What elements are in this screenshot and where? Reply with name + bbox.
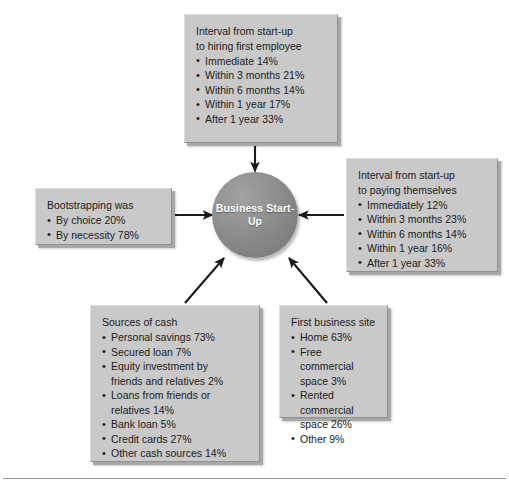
list-item: Personal savings 73% — [102, 330, 250, 345]
list-item: Home 63% — [291, 330, 378, 345]
list-item: Within 1 year 17% — [196, 97, 328, 112]
list-item: Within 1 year 16% — [358, 241, 488, 256]
info-box-list: Personal savings 73% Secured loan 7% Equ… — [102, 330, 250, 461]
center-node-business-start-up: Business Start-Up — [212, 172, 298, 258]
list-item: Other 9% — [291, 432, 378, 447]
info-box-title: Interval from start-up to hiring first e… — [196, 24, 328, 53]
info-box-list: Home 63% Free commercial space 3% Rented… — [291, 330, 378, 446]
list-item: Immediately 12% — [358, 198, 488, 213]
center-node-label: Business Start-Up — [212, 202, 298, 228]
info-box-title: Sources of cash — [102, 315, 250, 330]
list-item: Within 6 months 14% — [358, 227, 488, 242]
info-box-title: Bootstrapping was — [47, 198, 162, 213]
list-item: Bank loan 5% — [102, 417, 250, 432]
info-box-bootstrapping: Bootstrapping was By choice 20% By neces… — [35, 188, 172, 245]
list-item: Within 6 months 14% — [196, 83, 328, 98]
info-box-hiring-first-employee: Interval from start-up to hiring first e… — [184, 14, 338, 143]
info-box-title: Interval from start-up to paying themsel… — [358, 168, 488, 197]
list-item: Rented commercial space 26% — [291, 388, 378, 432]
info-box-paying-themselves: Interval from start-up to paying themsel… — [346, 158, 498, 272]
footer-divider — [3, 478, 506, 479]
list-item: Immediate 14% — [196, 54, 328, 69]
list-item: Other cash sources 14% — [102, 446, 250, 461]
business-startup-diagram: Business Start-Up Interval from start-up… — [0, 0, 509, 493]
info-box-list: Immediate 14% Within 3 months 21% Within… — [196, 54, 328, 127]
list-item: Equity investment by friends and relativ… — [102, 359, 250, 388]
info-box-sources-of-cash: Sources of cash Personal savings 73% Sec… — [90, 305, 260, 462]
list-item: After 1 year 33% — [196, 112, 328, 127]
list-item: Within 3 months 23% — [358, 212, 488, 227]
info-box-list: Immediately 12% Within 3 months 23% With… — [358, 198, 488, 271]
list-item: By choice 20% — [47, 213, 162, 228]
arrow-sources-of-cash — [185, 258, 224, 303]
list-item: Free commercial space 3% — [291, 345, 378, 389]
arrow-first-business-site — [289, 258, 327, 303]
list-item: Loans from friends or relatives 14% — [102, 388, 250, 417]
list-item: After 1 year 33% — [358, 256, 488, 271]
list-item: Secured loan 7% — [102, 345, 250, 360]
list-item: Within 3 months 21% — [196, 68, 328, 83]
info-box-list: By choice 20% By necessity 78% — [47, 213, 162, 242]
info-box-title: First business site — [291, 315, 378, 330]
list-item: By necessity 78% — [47, 228, 162, 243]
list-item: Credit cards 27% — [102, 432, 250, 447]
info-box-first-business-site: First business site Home 63% Free commer… — [279, 305, 388, 418]
